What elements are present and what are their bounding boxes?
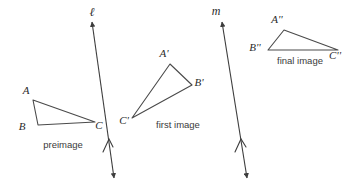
reflection-line-m: m: [212, 4, 247, 178]
caption-final-image: final image: [277, 55, 323, 66]
diagram-canvas: ℓ m A B C preimage A' B' C' first image …: [0, 0, 350, 183]
vertex-label-a-double-prime: A'': [270, 13, 283, 25]
vertex-label-b-prime: B': [194, 76, 204, 88]
caption-preimage: preimage: [43, 139, 83, 150]
triangle-final-image-outline: [268, 30, 338, 50]
triangle-preimage-outline: [33, 100, 95, 125]
vertex-label-b-double-prime: B'': [249, 41, 261, 53]
line-l-direction-tick-icon: [103, 139, 113, 152]
line-m-direction-tick-icon: [235, 139, 246, 152]
vertex-label-c-prime: C': [119, 114, 129, 126]
reflection-line-l: ℓ: [90, 5, 115, 178]
caption-first-image: first image: [156, 119, 200, 130]
geometry-diagram: ℓ m A B C preimage A' B' C' first image …: [0, 0, 350, 183]
vertex-label-b: B: [19, 120, 26, 132]
line-m-label: m: [212, 4, 221, 18]
vertex-label-a: A: [22, 84, 30, 96]
vertex-label-c-double-prime: C'': [329, 49, 342, 61]
line-m-segment: [222, 22, 247, 178]
line-l-segment: [92, 22, 114, 178]
vertex-label-c: C: [95, 119, 103, 131]
vertex-label-a-prime: A': [158, 47, 169, 59]
triangle-first-image-outline: [132, 64, 192, 118]
triangle-first-image: A' B' C' first image: [119, 47, 204, 130]
triangle-final-image: A'' B'' C'' final image: [249, 13, 341, 66]
line-l-label: ℓ: [90, 5, 95, 19]
triangle-preimage: A B C preimage: [19, 84, 104, 150]
